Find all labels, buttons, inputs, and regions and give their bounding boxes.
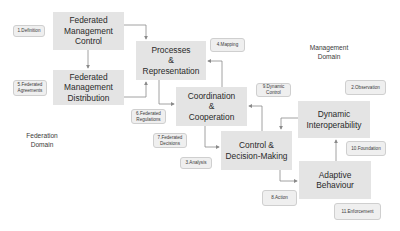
box-adaptive-behaviour: Adaptive Behaviour <box>299 161 371 199</box>
tag-dynamic-control: 9.Dynamic Control <box>256 83 291 97</box>
tag-definition: 1.Definition <box>13 25 45 37</box>
tag-analysis: 3.Analysis <box>180 157 212 169</box>
tag-observation: 2.Observation <box>345 80 386 95</box>
arrow-dynamic-to-control <box>281 118 298 129</box>
box-federated-management-distribution: Federated Management Distribution <box>53 70 124 105</box>
tag-federated-decisions: 7.Federated Decisions <box>153 133 187 148</box>
box-coordination-cooperation: Coordination & Cooperation <box>176 87 247 126</box>
tag-enforcement: 11.Enforcement <box>334 203 381 220</box>
tag-federated-agreements: 5.Federated Agreements <box>13 80 47 96</box>
arrow-processes-to-coordination <box>159 80 174 104</box>
arrow-control-to-adaptive <box>280 170 297 181</box>
box-control-decision-making: Control & Decision-Making <box>221 131 292 170</box>
tag-mapping: 4.Mapping <box>210 38 245 52</box>
tag-action: 8.Action <box>262 190 297 206</box>
tag-federated-regulations: 6.Federated Regulations <box>131 109 166 124</box>
arrow-control-to-coordination <box>249 106 262 131</box>
box-federated-management-control: Federated Management Control <box>53 12 124 50</box>
arrow-coordination-to-processes <box>208 61 222 87</box>
box-dynamic-interoperability: Dynamic Interoperability <box>298 101 370 138</box>
arrow-control-to-processes <box>124 25 146 39</box>
arrow-distribution-to-processes <box>124 82 146 97</box>
tag-foundation: 10.Foundation <box>346 141 386 156</box>
arrow-coordination-to-control <box>205 126 219 147</box>
management-domain-label: Management Domain <box>300 44 358 61</box>
federation-domain-label: Federation Domain <box>17 132 67 149</box>
box-processes-representation: Processes & Representation <box>136 41 206 80</box>
